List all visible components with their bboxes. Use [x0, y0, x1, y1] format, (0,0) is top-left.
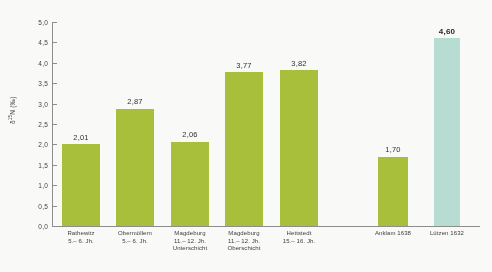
- bar-luetzen-1632[interactable]: [434, 38, 460, 226]
- bar-group-magdeburg-oberschicht[interactable]: 3,77: [225, 22, 263, 226]
- bar-group-luetzen-1632[interactable]: 4,60: [434, 22, 460, 226]
- x-axis-line: [52, 226, 480, 227]
- bar-magdeburg-unterschicht[interactable]: [171, 142, 209, 226]
- bar-group-hettstedt[interactable]: 3,82: [280, 22, 318, 226]
- y-axis-tick-label: 2,5: [38, 121, 48, 128]
- y-axis-tick-label: 3,5: [38, 80, 48, 87]
- y-axis-tick-label: 0,0: [38, 223, 48, 230]
- x-axis-label-line: Lützen 1632: [411, 230, 483, 238]
- bar-value-label: 4,60: [439, 27, 455, 36]
- y-axis-tick-label: 3,0: [38, 100, 48, 107]
- plot-area: 2,012,872,063,773,821,704,60: [52, 22, 480, 226]
- bar-value-label: 2,01: [73, 133, 88, 142]
- y-axis-tick-label: 5,0: [38, 19, 48, 26]
- x-axis-label-line: 15.– 16. Jh.: [263, 238, 335, 246]
- bar-group-anklam-1638[interactable]: 1,70: [378, 22, 408, 226]
- bar-group-magdeburg-unterschicht[interactable]: 2,06: [171, 22, 209, 226]
- bar-obermoellern[interactable]: [116, 109, 154, 226]
- bar-value-label: 3,82: [291, 59, 306, 68]
- y-axis-tick: 0,0: [52, 226, 57, 227]
- bar-rathewitz[interactable]: [62, 144, 100, 226]
- y-axis-tick-label: 1,0: [38, 182, 48, 189]
- bar-anklam-1638[interactable]: [378, 157, 408, 226]
- y-axis-title: δ15N (‰): [8, 96, 16, 124]
- y-axis-tick-label: 4,5: [38, 39, 48, 46]
- bar-magdeburg-oberschicht[interactable]: [225, 72, 263, 226]
- y-axis-tick-label: 0,5: [38, 202, 48, 209]
- y-axis-title-text: δ15N (‰): [9, 96, 16, 124]
- y-axis-tick-label: 1,5: [38, 161, 48, 168]
- bar-value-label: 1,70: [385, 145, 400, 154]
- x-axis-label-luetzen-1632: Lützen 1632: [411, 230, 483, 238]
- x-axis-label-hettstedt: Hettstedt15.– 16. Jh.: [263, 230, 335, 245]
- y-axis-tick-label: 4,0: [38, 59, 48, 66]
- y-axis-tick-label: 2,0: [38, 141, 48, 148]
- x-axis-label-line: Hettstedt: [263, 230, 335, 238]
- bar-value-label: 2,06: [182, 130, 197, 139]
- chart-figure: δ15N (‰) 0,00,51,01,52,02,53,03,54,04,55…: [0, 0, 492, 272]
- bar-hettstedt[interactable]: [280, 70, 318, 226]
- bar-group-obermoellern[interactable]: 2,87: [116, 22, 154, 226]
- bar-value-label: 2,87: [127, 97, 142, 106]
- bar-group-rathewitz[interactable]: 2,01: [62, 22, 100, 226]
- bar-value-label: 3,77: [236, 61, 251, 70]
- x-axis-label-line: Oberschicht: [208, 245, 280, 253]
